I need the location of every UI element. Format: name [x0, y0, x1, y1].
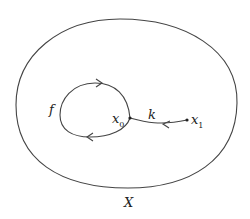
end-point-subscript: 1 — [198, 121, 203, 130]
path-k — [130, 118, 187, 123]
loop-f — [60, 83, 130, 137]
end-point-dot — [185, 118, 188, 121]
path-label: k — [148, 108, 156, 121]
loop-label: f — [49, 103, 54, 116]
diagram-canvas: f x0 k x1 X — [0, 0, 250, 219]
base-point-dot — [128, 116, 131, 119]
space-label: X — [124, 196, 133, 209]
diagram-svg — [0, 0, 250, 219]
path-arrow-icon — [163, 121, 170, 128]
base-point-label: x0 — [112, 112, 124, 129]
end-point-label: x1 — [191, 113, 203, 130]
base-point-subscript: 0 — [119, 120, 124, 129]
